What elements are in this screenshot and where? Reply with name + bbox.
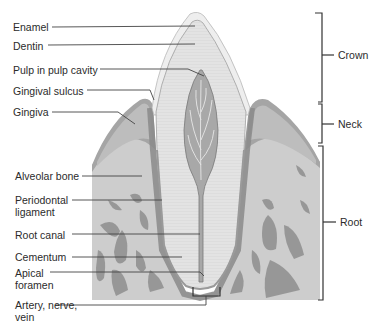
label-root-canal: Root canal bbox=[15, 229, 65, 241]
label-enamel: Enamel bbox=[13, 21, 49, 33]
label-gingiva: Gingiva bbox=[13, 106, 49, 118]
label-neck: Neck bbox=[338, 118, 362, 130]
label-periodontal-ligament: Periodontal ligament bbox=[15, 194, 73, 218]
label-artery-nerve-vein: Artery, nerve, vein bbox=[15, 299, 79, 323]
label-gingival-sulcus: Gingival sulcus bbox=[13, 85, 84, 97]
label-crown: Crown bbox=[338, 49, 368, 61]
label-alveolar-bone: Alveolar bone bbox=[15, 170, 79, 182]
label-cementum: Cementum bbox=[15, 251, 66, 263]
label-pulp: Pulp in pulp cavity bbox=[13, 64, 98, 76]
tooth bbox=[152, 12, 250, 289]
label-apical-foramen: Apical foramen bbox=[15, 267, 61, 291]
label-dentin: Dentin bbox=[13, 40, 43, 52]
label-root: Root bbox=[340, 216, 362, 228]
